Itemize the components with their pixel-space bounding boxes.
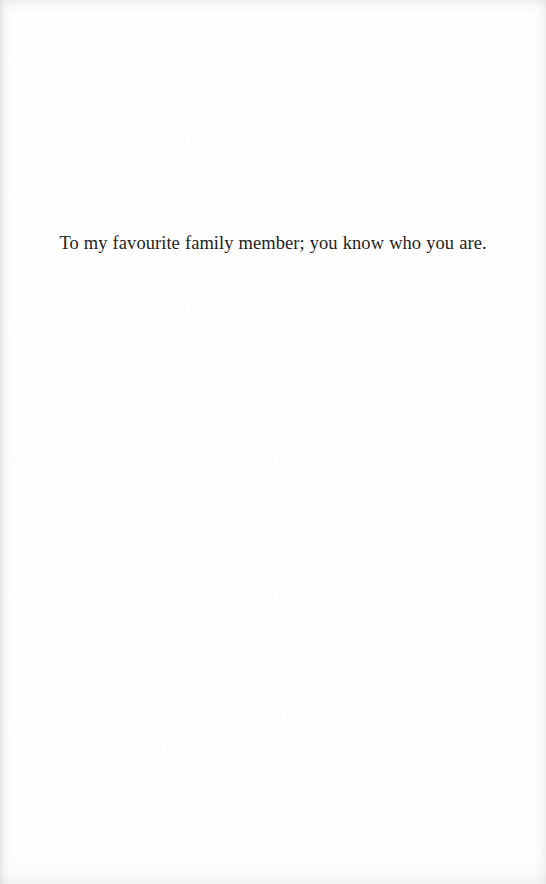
scan-edge-shadow-top [0, 0, 546, 22]
dedication-block: To my favourite family member; you know … [0, 232, 546, 254]
paper-texture-noise [0, 0, 546, 884]
scan-edge-shadow-left [0, 0, 16, 884]
dedication-text: To my favourite family member; you know … [59, 232, 486, 254]
scan-edge-shadow-bottom [0, 844, 546, 884]
scanned-book-page: To my favourite family member; you know … [0, 0, 546, 884]
scan-edge-shadow-right [528, 0, 546, 884]
